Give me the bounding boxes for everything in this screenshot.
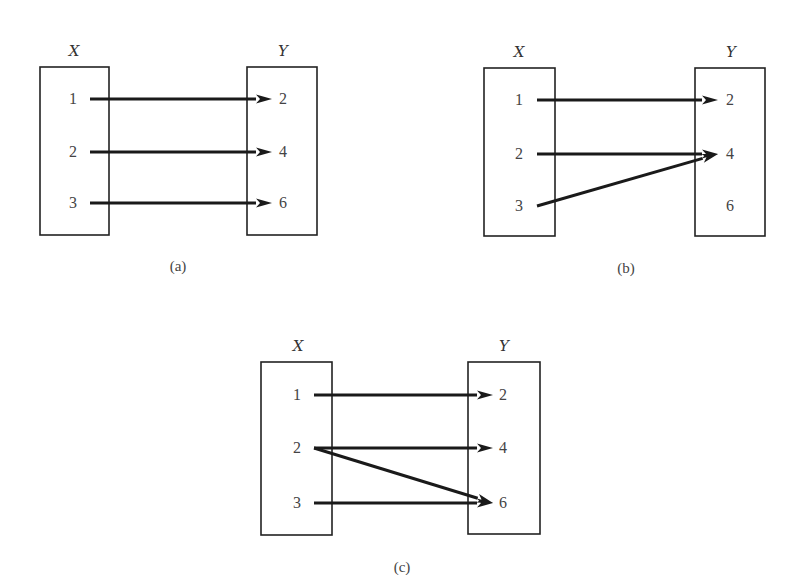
set-element: 2 [279, 90, 287, 107]
panel-caption: (c) [394, 559, 411, 575]
panel-c: X123Y246(c) [261, 337, 540, 575]
set-x: X123 [261, 337, 332, 535]
set-y: Y246 [695, 43, 765, 236]
panel-a: X123Y246(a) [40, 42, 317, 275]
set-element: 6 [499, 494, 507, 511]
set-element: 1 [293, 386, 301, 403]
mapping-arrow-3-to-4 [537, 154, 718, 206]
panel-caption: (b) [617, 260, 635, 277]
mapping-arrow-2-to-6 [314, 448, 493, 503]
arrowhead-icon [477, 391, 493, 400]
set-x: X123 [484, 43, 555, 236]
mapping-arrow-1-to-2 [537, 96, 718, 105]
set-x: X123 [40, 42, 109, 235]
set-label: X [513, 43, 526, 61]
mapping-arrow-1-to-2 [314, 391, 493, 400]
arrowhead-icon [256, 148, 272, 157]
arrowhead-icon [477, 444, 493, 453]
set-element: 2 [499, 386, 507, 403]
set-label: X [292, 337, 305, 355]
arrowhead-icon [256, 199, 272, 208]
set-element: 3 [69, 194, 77, 211]
arrowhead-icon [256, 95, 272, 104]
set-element: 3 [293, 494, 301, 511]
mapping-arrow-2-to-4 [90, 148, 272, 157]
set-element: 2 [69, 143, 77, 160]
arrowhead-icon [702, 96, 718, 105]
set-element: 2 [515, 145, 523, 162]
set-element: 4 [726, 145, 734, 162]
set-element: 2 [726, 91, 734, 108]
set-element: 6 [726, 197, 734, 214]
set-element: 3 [515, 197, 523, 214]
set-y: Y246 [468, 337, 540, 534]
mapping-arrow-3-to-6 [314, 499, 493, 508]
set-label: Y [278, 42, 290, 60]
mapping-arrow-3-to-6 [90, 199, 272, 208]
arrowhead-icon [701, 154, 718, 163]
set-element: 1 [515, 91, 523, 108]
panel-caption: (a) [170, 258, 187, 275]
set-element: 4 [499, 439, 507, 456]
set-element: 6 [279, 194, 287, 211]
set-element: 1 [69, 90, 77, 107]
set-label: X [68, 42, 81, 60]
function-mapping-diagram: X123Y246(a) X123Y246(b) X123Y246(c) [0, 0, 803, 575]
mapping-arrow-2-to-4 [537, 150, 718, 159]
panel-b: X123Y246(b) [484, 43, 765, 277]
set-element: 4 [279, 143, 287, 160]
set-label: Y [726, 43, 738, 61]
set-element: 2 [293, 439, 301, 456]
mapping-arrow-1-to-2 [90, 95, 272, 104]
set-label: Y [499, 337, 511, 355]
mapping-arrow-2-to-4 [314, 444, 493, 453]
